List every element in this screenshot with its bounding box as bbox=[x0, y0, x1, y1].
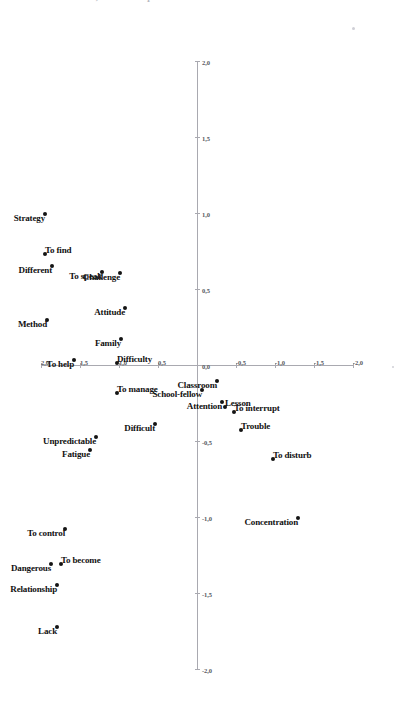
x-tick bbox=[195, 61, 200, 62]
x-tick bbox=[195, 593, 200, 594]
data-point-label: Unpredictable bbox=[43, 436, 96, 446]
x-tick bbox=[195, 517, 200, 518]
x-tick-label: -1,0 bbox=[202, 515, 212, 522]
x-tick-label: -1,5 bbox=[202, 591, 212, 598]
x-tick-label: 2,0 bbox=[202, 59, 210, 66]
data-point-label: Trouble bbox=[241, 421, 270, 431]
y-tick-label: -1,5 bbox=[314, 359, 324, 366]
x-tick bbox=[195, 365, 200, 366]
data-point-label: Concentration bbox=[245, 517, 299, 527]
data-point-label: To disturb bbox=[273, 450, 311, 460]
data-point-label: Classroom bbox=[177, 380, 216, 390]
data-point-label: To become bbox=[61, 555, 101, 565]
data-point-label: Relationship bbox=[10, 584, 57, 594]
x-tick-label: 1,5 bbox=[202, 135, 210, 142]
x-tick-label: -2,0 bbox=[202, 667, 212, 674]
scan-speckle bbox=[352, 27, 355, 30]
data-point-label: To help bbox=[46, 359, 73, 369]
x-tick bbox=[195, 441, 200, 442]
data-point-label: To find bbox=[45, 245, 71, 255]
x-tick-label: 0,5 bbox=[202, 287, 210, 294]
data-point-label: Attention bbox=[187, 401, 222, 411]
data-point-label: Strategy bbox=[14, 213, 45, 223]
y-tick-label: -1,0 bbox=[275, 359, 285, 366]
data-point-label: Family bbox=[95, 338, 121, 348]
y-tick-label: -2,0 bbox=[353, 359, 363, 366]
x-tick-label: 0,0 bbox=[202, 363, 210, 370]
data-point-label: Difficult bbox=[124, 423, 155, 433]
data-point-label: Difficulty bbox=[117, 354, 152, 364]
chart-canvas: -2,0-1,5-1,0-0,50,00,51,01,52,0-2,0-1,5-… bbox=[0, 0, 413, 720]
y-tick-label: -0,5 bbox=[236, 359, 246, 366]
x-tick bbox=[195, 137, 200, 138]
data-point-label: Different bbox=[18, 265, 51, 275]
data-point-label: School-fellow bbox=[153, 389, 203, 399]
data-point-label: To control bbox=[27, 528, 65, 538]
x-tick bbox=[195, 289, 200, 290]
x-tick-label: 1,0 bbox=[202, 211, 210, 218]
data-point-label: To speak bbox=[69, 271, 102, 281]
x-tick bbox=[195, 669, 200, 670]
dimension-1-axis bbox=[197, 62, 198, 670]
scatter-plot: -2,0-1,5-1,0-0,50,00,51,01,52,0-2,0-1,5-… bbox=[0, 0, 413, 720]
data-point-label: Fatigue bbox=[62, 449, 90, 459]
x-tick bbox=[195, 213, 200, 214]
data-point-label: Method bbox=[18, 319, 47, 329]
data-point-label: Lack bbox=[38, 626, 57, 636]
y-tick-label: 1,5 bbox=[80, 359, 88, 366]
data-point-label: Dangerous bbox=[11, 563, 51, 573]
x-tick-label: -0,5 bbox=[202, 439, 212, 446]
scan-speckle bbox=[392, 366, 394, 368]
data-point-label: Attitude bbox=[94, 307, 125, 317]
data-point-label: To interrupt bbox=[234, 403, 280, 413]
y-tick-label: 0,5 bbox=[158, 359, 166, 366]
